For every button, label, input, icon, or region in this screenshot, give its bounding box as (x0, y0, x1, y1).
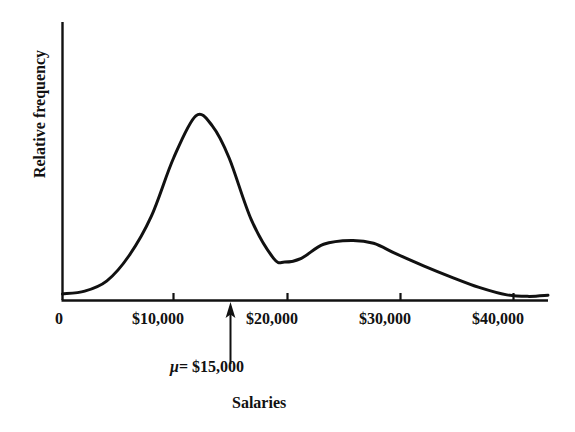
density-curve (63, 114, 549, 296)
mu-annotation-label: μ= $15,000 (170, 358, 244, 376)
x-tick-label-0: 0 (55, 310, 63, 328)
x-tick-label-20000: $20,000 (246, 310, 298, 328)
x-axis-label: Salaries (232, 394, 286, 412)
x-tick-label-30000: $30,000 (359, 310, 411, 328)
mu-arrow (226, 302, 236, 364)
mu-value-text: = $15,000 (179, 358, 244, 375)
mu-symbol: μ (170, 358, 179, 375)
chart-canvas (0, 0, 575, 432)
chart-figure: Relative frequency 0 $10,000 $20,000 $30… (0, 0, 575, 432)
x-tick-label-40000: $40,000 (472, 310, 524, 328)
x-tick-label-10000: $10,000 (132, 310, 184, 328)
y-axis-label: Relative frequency (31, 14, 49, 214)
